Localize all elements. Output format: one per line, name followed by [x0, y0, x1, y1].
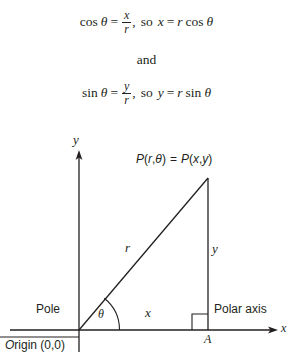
point-label-P2: P — [181, 152, 189, 166]
point-label-P1: P — [136, 152, 144, 166]
vertical-leg-label-y: y — [212, 242, 218, 255]
foot-point-label-A: A — [204, 333, 211, 345]
polar-axis-label: Polar axis — [214, 303, 267, 315]
hypotenuse-label-r: r — [125, 241, 130, 254]
figure-page: cosθ=xr,sox=rcosθ and sinθ=yr,soy=rsinθ — [0, 0, 293, 359]
angle-label-theta: θ — [98, 308, 104, 320]
origin-label-initial: O — [5, 338, 14, 352]
angle-arc-theta — [104, 298, 119, 330]
point-label-close-paren-1: ) — [162, 152, 166, 166]
right-angle-marker — [192, 314, 208, 330]
x-axis-label: x — [281, 322, 286, 334]
y-axis-label: y — [73, 133, 79, 146]
origin-label-rest: rigin (0,0) — [14, 338, 65, 352]
origin-label: Origin (0,0) — [5, 339, 65, 351]
pole-label: Pole — [36, 303, 60, 315]
horizontal-leg-label-x: x — [145, 306, 151, 319]
point-label-equals: = — [170, 152, 177, 166]
point-label-P: P(r,θ)=P(x,y) — [136, 153, 212, 165]
point-label-close-paren-2: ) — [208, 152, 212, 166]
